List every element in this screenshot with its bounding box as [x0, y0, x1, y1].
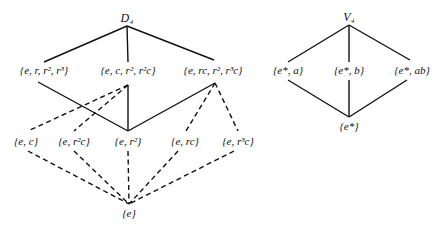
- solid-edge: [127, 26, 214, 60]
- solid-edge: [38, 82, 128, 131]
- dashed-edge: [129, 151, 178, 204]
- dashed-edge: [215, 83, 238, 131]
- subgroup-node: {e*}: [339, 121, 358, 132]
- group-title: D₄: [121, 12, 134, 24]
- subgroup-node: {e*, a}: [273, 65, 303, 76]
- subgroup-node: {e*, ab}: [394, 65, 430, 76]
- subgroup-node: {e}: [122, 208, 136, 219]
- solid-edge: [128, 83, 215, 131]
- dashed-edge: [28, 151, 129, 204]
- solid-edge: [127, 26, 128, 62]
- subgroup-node: {e, r²c}: [58, 136, 90, 147]
- dashed-edge: [186, 83, 215, 131]
- lattice-edges: [0, 0, 440, 235]
- subgroup-node: {e, r, r², r³}: [20, 65, 68, 76]
- solid-edge: [349, 80, 407, 117]
- subgroup-node: {e, rc, r², r³c}: [184, 65, 243, 76]
- solid-edge: [288, 80, 349, 117]
- subgroup-node: {e, rc}: [171, 136, 199, 147]
- dashed-edge: [128, 151, 129, 204]
- solid-edge: [44, 26, 127, 62]
- solid-edge: [288, 25, 349, 62]
- subgroup-node: {e, c, r², r²c}: [100, 65, 155, 76]
- dashed-edge: [28, 85, 128, 131]
- dashed-edge: [74, 151, 129, 204]
- d4-subgroup-lattice: [28, 26, 238, 204]
- subgroup-node: {e, r³c}: [222, 136, 254, 147]
- dashed-edge: [74, 85, 128, 131]
- subgroup-node: {e, r²}: [115, 136, 142, 147]
- solid-edge: [349, 25, 410, 60]
- subgroup-node: {e*, b}: [334, 65, 364, 76]
- group-title: V₄: [343, 11, 355, 23]
- dashed-edge: [129, 151, 234, 204]
- subgroup-node: {e, c}: [14, 136, 38, 147]
